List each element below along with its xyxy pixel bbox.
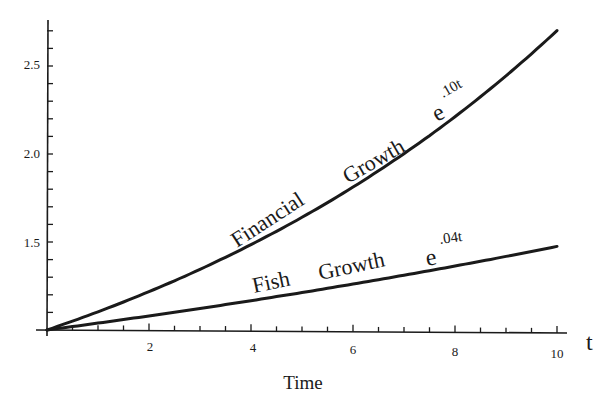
y-tick-label-2-0: 2.0	[24, 146, 40, 161]
x-tick-labels: 2 4 6 8 10	[147, 339, 564, 361]
y-tick-labels: 2.5 2.0 1.5	[24, 57, 40, 250]
y-axis-line	[47, 20, 48, 336]
financial-growth-curve	[47, 31, 557, 330]
x-tick-label-2: 2	[147, 339, 154, 354]
fish-growth-label: Fish Growth e .04t	[250, 228, 464, 298]
x-axis-variable-t: t	[586, 329, 593, 355]
financial-formula-base: e	[427, 98, 449, 126]
y-tick-label-1-5: 1.5	[24, 235, 40, 250]
x-tick-label-4: 4	[250, 340, 257, 355]
x-tick-label-10: 10	[551, 346, 564, 361]
growth-word-financial: Growth	[338, 133, 409, 188]
x-tick-label-8: 8	[452, 344, 459, 359]
y-tick-label-2-5: 2.5	[24, 57, 40, 72]
axes	[36, 20, 567, 336]
fish-word: Fish	[250, 266, 292, 298]
fish-formula-base: e	[423, 243, 438, 270]
financial-growth-label: Financial Growth e .10t	[226, 75, 465, 252]
fish-formula-exponent: .04t	[438, 228, 464, 247]
growth-chart: 2.5 2.0 1.5 2 4 6 8 10 t Time Financial …	[0, 0, 610, 405]
financial-formula-exponent: .10t	[437, 75, 466, 101]
fish-growth-curve	[47, 246, 557, 330]
x-axis-title: Time	[283, 372, 322, 393]
x-tick-label-6: 6	[350, 342, 357, 357]
